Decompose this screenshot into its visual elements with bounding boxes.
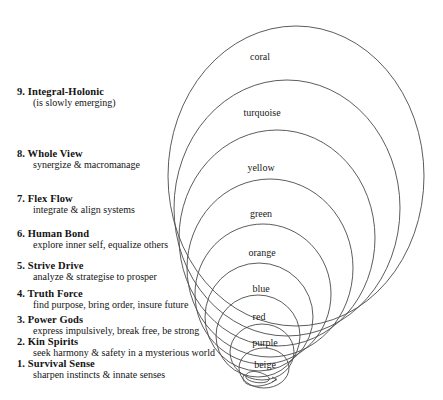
stage-heading: 7. Flex Flow bbox=[0, 193, 215, 204]
stage-number: 4. bbox=[17, 288, 25, 299]
stage-heading: 2. Kin Spirits bbox=[0, 336, 215, 347]
stage-heading: 5. Strive Drive bbox=[0, 260, 215, 271]
stage-item-8: 8. Whole Viewsynergize & macromanage bbox=[0, 148, 215, 170]
stage-heading: 3. Power Gods bbox=[0, 314, 215, 325]
oval-label-orange: orange bbox=[248, 247, 275, 258]
stage-name: Truth Force bbox=[25, 288, 83, 299]
stage-number: 6. bbox=[17, 228, 25, 239]
stage-description: seek harmony & safety in a mysterious wo… bbox=[0, 347, 215, 358]
stage-description: analyze & strategise to prosper bbox=[0, 271, 215, 282]
stage-number: 8. bbox=[17, 148, 25, 159]
stage-item-1: 1. Survival Sensesharpen instincts & inn… bbox=[0, 358, 215, 380]
oval-label-red: red bbox=[253, 311, 266, 322]
stage-name: Survival Sense bbox=[25, 358, 95, 369]
oval-label-blue: blue bbox=[252, 283, 269, 294]
stage-heading: 1. Survival Sense bbox=[0, 358, 215, 369]
stage-item-3: 3. Power Godsexpress impulsively, break … bbox=[0, 314, 215, 336]
stage-description: (is slowly emerging) bbox=[0, 97, 215, 108]
stage-heading: 6. Human Bond bbox=[0, 228, 215, 239]
spiral-dynamics-diagram: coralturquoiseyellowgreenorangeblueredpu… bbox=[0, 0, 443, 400]
stage-name: Strive Drive bbox=[25, 260, 83, 271]
oval-label-purple: purple bbox=[252, 337, 278, 348]
stage-name: Kin Spirits bbox=[25, 336, 78, 347]
oval-label-beige: beige bbox=[254, 359, 276, 370]
oval-label-yellow: yellow bbox=[247, 162, 274, 173]
stage-name: Human Bond bbox=[25, 228, 89, 239]
stage-number: 9. bbox=[17, 86, 25, 97]
stage-number: 5. bbox=[17, 260, 25, 271]
stage-description: synergize & macromanage bbox=[0, 159, 215, 170]
stage-heading: 8. Whole View bbox=[0, 148, 215, 159]
stage-description: find purpose, bring order, insure future bbox=[0, 299, 215, 310]
stage-number: 2. bbox=[17, 336, 25, 347]
stage-description: explore inner self, equalize others bbox=[0, 239, 215, 250]
stage-name: Flex Flow bbox=[25, 193, 73, 204]
stage-heading: 9. Integral-Holonic bbox=[0, 86, 215, 97]
stage-item-5: 5. Strive Driveanalyze & strategise to p… bbox=[0, 260, 215, 282]
oval-label-green: green bbox=[250, 208, 272, 219]
stage-item-9: 9. Integral-Holonic(is slowly emerging) bbox=[0, 86, 215, 108]
stage-name: Whole View bbox=[25, 148, 83, 159]
stage-description: sharpen instincts & innate senses bbox=[0, 369, 215, 380]
stage-item-6: 6. Human Bondexplore inner self, equaliz… bbox=[0, 228, 215, 250]
stage-item-2: 2. Kin Spiritsseek harmony & safety in a… bbox=[0, 336, 215, 358]
stage-number: 3. bbox=[17, 314, 25, 325]
stage-item-7: 7. Flex Flowintegrate & align systems bbox=[0, 193, 215, 215]
stage-number: 7. bbox=[17, 193, 25, 204]
stage-number: 1. bbox=[17, 358, 25, 369]
stage-name: Power Gods bbox=[25, 314, 83, 325]
stage-heading: 4. Truth Force bbox=[0, 288, 215, 299]
stage-name: Integral-Holonic bbox=[25, 86, 104, 97]
stage-description: integrate & align systems bbox=[0, 204, 215, 215]
stage-description: express impulsively, break free, be stro… bbox=[0, 325, 215, 336]
stage-list: 9. Integral-Holonic(is slowly emerging)8… bbox=[0, 0, 215, 400]
oval-label-turquoise: turquoise bbox=[243, 107, 280, 118]
oval-label-coral: coral bbox=[250, 51, 270, 62]
stage-item-4: 4. Truth Forcefind purpose, bring order,… bbox=[0, 288, 215, 310]
